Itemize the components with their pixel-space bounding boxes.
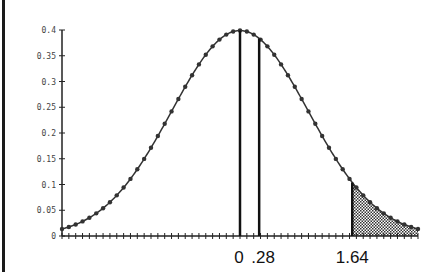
data-point [204,52,208,56]
data-point [87,216,91,220]
data-point [176,97,180,101]
data-point [162,122,166,126]
x-annotation-labels: 0.281.64 [234,248,369,267]
y-tick-label: 0.2 [42,129,57,138]
y-tick-label: 0.05 [37,206,56,215]
y-tick-label: 0 [51,232,56,241]
data-point [101,206,105,210]
data-point [80,219,84,223]
data-point [149,146,153,150]
data-point [67,225,71,229]
data-point [135,167,139,171]
data-point [327,146,331,150]
data-point [121,185,125,189]
data-point [299,97,303,101]
y-tick-label: 0.3 [42,78,57,87]
data-point [313,122,317,126]
data-point [108,200,112,204]
data-point [354,185,358,189]
data-point [128,177,132,181]
data-point [251,32,255,36]
data-point [197,62,201,66]
x-annotation-label: .28 [251,248,275,267]
data-point [402,222,406,226]
data-point [320,134,324,138]
data-point [245,29,249,33]
data-point [382,211,386,215]
vertical-marker-lines [240,31,352,236]
x-annotation-label: 1.64 [336,248,369,267]
data-point [279,62,283,66]
data-point [265,44,269,48]
data-point [94,211,98,215]
shaded-tail-region [352,182,418,236]
data-point [156,134,160,138]
data-point [231,29,235,33]
data-point [375,206,379,210]
data-point [115,193,119,197]
data-point [217,37,221,41]
data-point [73,222,77,226]
data-point [334,157,338,161]
y-axis: 00.050.10.150.20.250.30.350.4 [37,26,65,241]
y-tick-label: 0.1 [42,181,57,190]
data-point [60,227,64,231]
x-annotation-label: 0 [234,248,243,267]
data-point [224,32,228,36]
normal-distribution-chart: 00.050.10.150.20.250.30.350.4 0.281.64 [0,0,439,272]
data-point [293,85,297,89]
data-point [340,167,344,171]
data-point [183,85,187,89]
y-tick-label: 0.25 [37,103,56,112]
data-point [361,193,365,197]
data-point [347,177,351,181]
data-point [286,73,290,77]
data-point [210,44,214,48]
y-tick-label: 0.4 [42,26,57,35]
shaded-area [352,182,418,236]
data-point [272,52,276,56]
data-point [395,219,399,223]
data-point [142,157,146,161]
data-point [388,216,392,220]
data-point [169,109,173,113]
data-point [416,227,420,231]
data-point [409,225,413,229]
y-tick-label: 0.15 [37,155,56,164]
data-point [368,200,372,204]
data-point [190,73,194,77]
data-point [306,109,310,113]
y-tick-label: 0.35 [37,52,56,61]
